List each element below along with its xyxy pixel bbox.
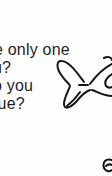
partial-drawing-icon (103, 159, 112, 171)
worksheet-page: e only one u? o you rue? (0, 0, 112, 176)
bow-drawing-icon (0, 0, 112, 176)
